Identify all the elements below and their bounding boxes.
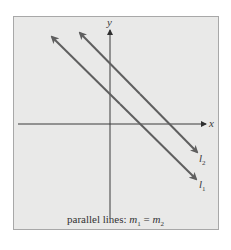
caption: parallel lines: m1 = m2 <box>0 213 231 228</box>
caption-prefix: parallel lines: <box>67 213 129 225</box>
line-l2 <box>140 94 197 152</box>
line-l1 <box>120 104 196 179</box>
y-axis-label: y <box>106 16 112 28</box>
slope-m2-sub: 2 <box>160 220 164 228</box>
equals-sign: = <box>141 213 153 225</box>
line-l2-label: l2 <box>199 152 206 167</box>
x-axis-label: x <box>208 117 214 129</box>
line-l1-label: l1 <box>199 178 206 193</box>
